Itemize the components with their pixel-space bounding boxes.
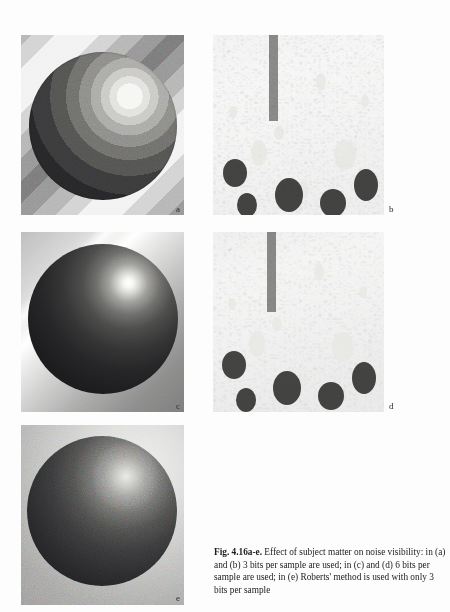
figure-caption-label: Fig. 4.16a-e. bbox=[214, 547, 262, 557]
figure-panel-c bbox=[21, 232, 184, 412]
panel-c-sphere bbox=[28, 244, 178, 394]
panel-a-image bbox=[21, 35, 184, 215]
figure-panel-e bbox=[21, 425, 184, 605]
panel-label-c: c bbox=[176, 402, 180, 411]
panel-label-a: a bbox=[176, 205, 180, 214]
panel-label-b: b bbox=[389, 205, 394, 214]
panel-d-crowd-photograph bbox=[213, 232, 384, 412]
panel-label-e: e bbox=[176, 594, 180, 603]
figure-caption: Fig. 4.16a-e. Effect of subject matter o… bbox=[214, 546, 446, 596]
panel-label-d: d bbox=[389, 402, 394, 411]
panel-d-image bbox=[213, 232, 384, 412]
panel-b-image bbox=[213, 35, 384, 215]
panel-a-sphere bbox=[29, 52, 177, 200]
figure-page: a bbox=[0, 0, 450, 612]
panel-c-image bbox=[21, 232, 184, 412]
panel-e-image bbox=[21, 425, 184, 605]
figure-panel-d bbox=[213, 232, 384, 412]
panel-b-crowd-photograph bbox=[213, 35, 384, 215]
figure-panel-a bbox=[21, 35, 184, 215]
panel-e-sphere bbox=[27, 436, 177, 586]
figure-panel-b bbox=[213, 35, 384, 215]
